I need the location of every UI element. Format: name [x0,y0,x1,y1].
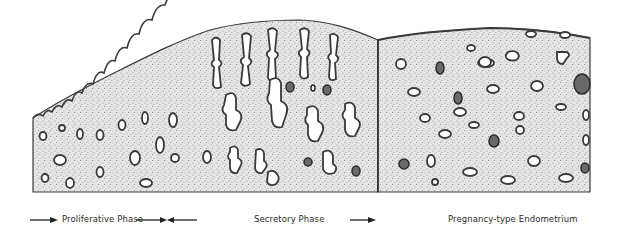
proliferative-phase-label: Proliferative Phase [62,214,143,224]
endometrium-diagram [0,0,617,244]
arrow-right-icon [350,217,376,223]
pregnancy-endometrium-label: Pregnancy-type Endometrium [448,214,578,224]
secretory-phase-label: Secretory Phase [254,214,324,224]
arrow-converging-icon [136,217,197,223]
arrow-right-icon [30,217,58,223]
